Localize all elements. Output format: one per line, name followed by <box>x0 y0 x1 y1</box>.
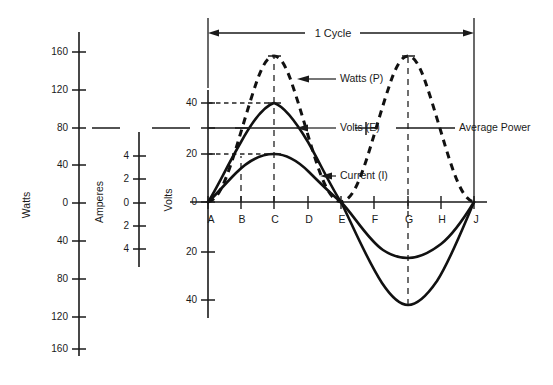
cycle-arrowhead-right <box>463 30 474 37</box>
volts-ticklabel: 20 <box>186 246 198 257</box>
watts-ticklabel: 40 <box>57 159 69 170</box>
watts-callout-arrowhead <box>297 76 309 83</box>
volts-callout-label: Volts (E) <box>340 121 380 133</box>
amperes-axis: 4 2 0 2 4 Amperes <box>93 132 146 267</box>
x-axis-label-J: J <box>473 213 478 225</box>
average-power-callout-label: Average Power <box>459 121 531 133</box>
x-axis-label-B: B <box>238 213 245 225</box>
amperes-axis-title: Amperes <box>93 181 105 223</box>
plot-area: A B C D E F G H J <box>190 56 487 305</box>
volts-axis-title: Volts <box>162 189 174 212</box>
volts-curve <box>208 103 474 305</box>
volts-ticklabel: 40 <box>186 294 198 305</box>
watts-axis: 160 120 80 40 0 40 80 120 160 Watts <box>20 32 86 356</box>
waveform-svg: 160 120 80 40 0 40 80 120 160 Watts 4 2 … <box>0 0 553 385</box>
callout-current: Current (I) <box>320 169 388 181</box>
amperes-ticklabel: 4 <box>123 150 129 161</box>
watts-ticklabel: 80 <box>57 122 69 133</box>
volts-ticklabel: 40 <box>186 97 198 108</box>
watts-ticklabel: 80 <box>57 273 69 284</box>
x-axis-label-E: E <box>338 213 345 225</box>
callout-watts: Watts (P) <box>297 72 383 84</box>
x-axis-label-G: G <box>405 213 413 225</box>
waveform-figure: 160 120 80 40 0 40 80 120 160 Watts 4 2 … <box>0 0 553 385</box>
cycle-label: 1 Cycle <box>315 27 352 39</box>
volts-axis: 40 20 0 20 40 Volts <box>162 90 215 318</box>
watts-ticklabel: 160 <box>51 343 68 354</box>
current-callout-label: Current (I) <box>340 169 388 181</box>
x-axis-label-F: F <box>372 213 378 225</box>
x-axis-label-H: H <box>438 213 446 225</box>
cycle-arrowhead-left <box>208 30 219 37</box>
x-axis-label-C: C <box>271 213 279 225</box>
volts-ticklabel: 0 <box>191 196 197 207</box>
amperes-ticklabel: 4 <box>123 243 129 254</box>
callout-average-power: Average Power <box>459 121 531 133</box>
x-axis-label-D: D <box>305 213 313 225</box>
watts-ticklabel: 0 <box>62 197 68 208</box>
callout-volts: Volts (E) <box>296 121 380 133</box>
x-axis-label-A: A <box>207 213 214 225</box>
amperes-ticklabel: 2 <box>123 220 129 231</box>
amperes-ticklabel: 2 <box>123 173 129 184</box>
amperes-ticklabel: 0 <box>123 197 129 208</box>
watts-callout-label: Watts (P) <box>340 72 383 84</box>
watts-ticklabel: 40 <box>57 235 69 246</box>
watts-ticklabel: 120 <box>51 311 68 322</box>
watts-ticklabel: 160 <box>51 46 68 57</box>
volts-ticklabel: 20 <box>186 148 198 159</box>
watts-axis-title: Watts <box>20 192 32 218</box>
watts-ticklabel: 120 <box>51 84 68 95</box>
